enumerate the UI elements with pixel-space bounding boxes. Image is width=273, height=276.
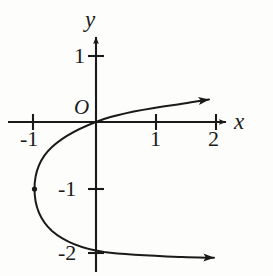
x-tick-label-minus-1: -1 xyxy=(20,128,38,150)
plot-canvas xyxy=(0,0,273,276)
y-axis-label: y xyxy=(85,8,95,31)
x-tick-label-two: 2 xyxy=(208,128,219,150)
x-axis-label: x xyxy=(234,110,244,133)
x-tick-label-one: 1 xyxy=(150,128,161,150)
y-tick-label-one: 1 xyxy=(74,45,85,67)
y-tick-label-minus-1: -1 xyxy=(58,178,76,200)
origin-label: O xyxy=(74,97,89,118)
parabola-figure: y x O 1 -1 -2 -1 1 2 xyxy=(0,0,273,276)
y-tick-label-minus-2: -2 xyxy=(58,242,76,264)
vertex-point-marker xyxy=(32,186,37,191)
